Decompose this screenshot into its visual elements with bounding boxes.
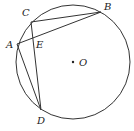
label-o: O (79, 57, 87, 68)
center-point-o (72, 61, 74, 63)
label-d: D (36, 115, 45, 126)
circle-geometry-diagram: C B A E O D (0, 0, 134, 131)
label-e: E (35, 39, 44, 50)
segment-cb (31, 12, 101, 22)
label-a: A (5, 39, 13, 50)
label-c: C (22, 7, 30, 18)
label-b: B (103, 1, 111, 12)
